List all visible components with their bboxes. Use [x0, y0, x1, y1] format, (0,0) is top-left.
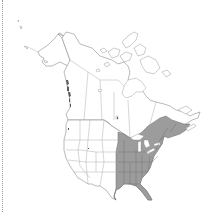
range-map: [0, 0, 207, 212]
north-america-map: [0, 0, 207, 212]
arctic-islands: [122, 32, 138, 48]
lake-michigan: [138, 141, 141, 152]
